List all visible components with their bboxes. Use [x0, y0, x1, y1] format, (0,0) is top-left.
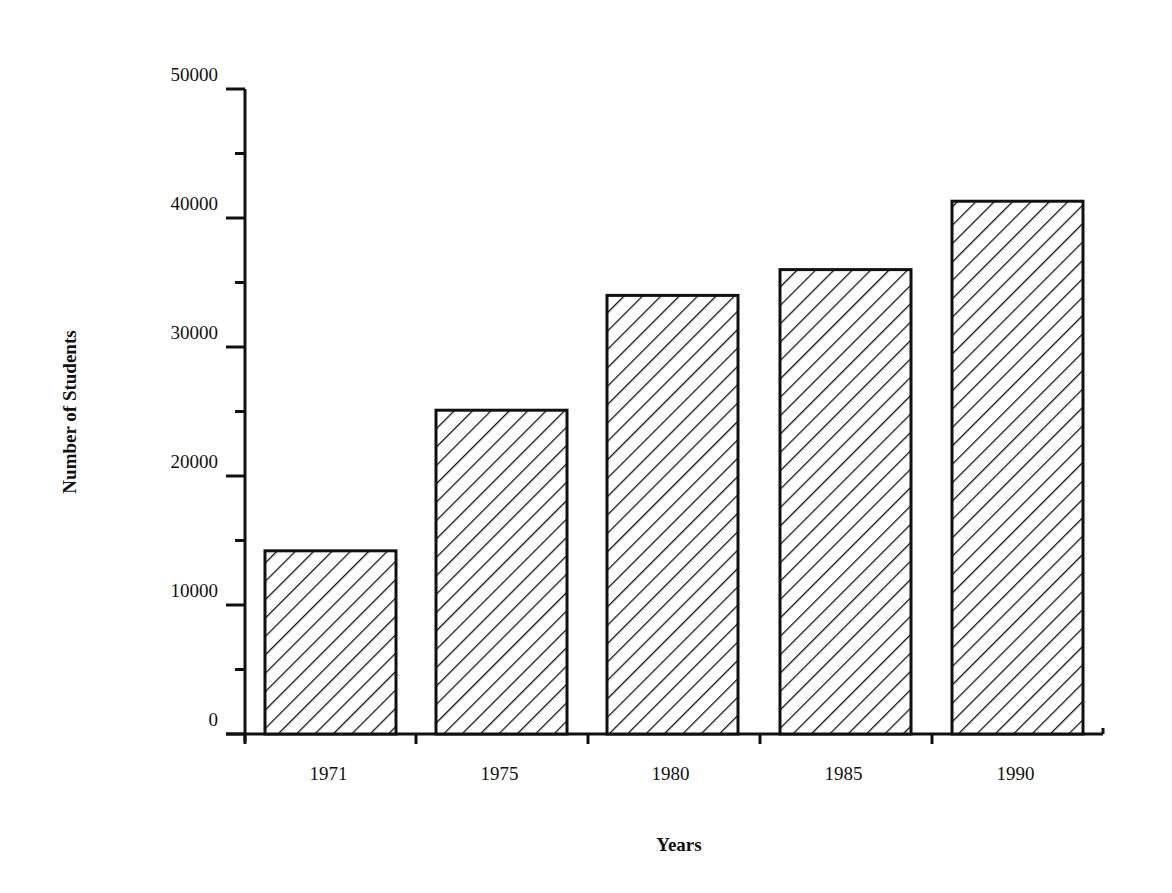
bar-1971	[265, 551, 396, 734]
y-axis: 01000020000300004000050000	[171, 64, 246, 742]
y-tick-label: 40000	[171, 193, 219, 214]
y-tick-label: 10000	[171, 580, 219, 601]
x-tick-label: 1975	[481, 763, 519, 784]
y-tick-label: 0	[209, 709, 219, 730]
x-tick-label: 1980	[652, 763, 690, 784]
bars-group	[265, 201, 1083, 734]
y-tick-label: 50000	[171, 64, 219, 85]
y-tick-label: 20000	[171, 451, 219, 472]
y-axis-title: Number of Students	[59, 330, 80, 493]
x-axis: 19711975198019851990	[226, 728, 1103, 784]
x-tick-label: 1971	[310, 763, 348, 784]
x-axis-title: Years	[656, 834, 701, 855]
y-tick-label: 30000	[171, 322, 219, 343]
x-tick-label: 1990	[997, 763, 1035, 784]
bar-chart: 01000020000300004000050000 1971197519801…	[0, 0, 1172, 893]
x-tick-label: 1985	[825, 763, 863, 784]
bar-1985	[780, 270, 911, 734]
bar-1980	[607, 295, 738, 734]
bar-1990	[952, 201, 1083, 734]
bar-1975	[436, 410, 567, 734]
